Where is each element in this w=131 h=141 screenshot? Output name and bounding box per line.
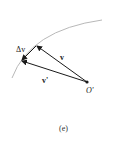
label-delta-v: Δv — [16, 45, 25, 54]
label-v-prime: v' — [42, 76, 48, 85]
velocity-diagram: Δv v v' O' (e) — [0, 0, 131, 141]
label-v: v — [60, 53, 64, 62]
label-origin: O' — [86, 86, 94, 95]
figure-caption: (e) — [59, 124, 68, 133]
origin-point — [85, 80, 88, 83]
trajectory-arc — [12, 20, 102, 78]
vector-v-prime — [22, 61, 87, 82]
